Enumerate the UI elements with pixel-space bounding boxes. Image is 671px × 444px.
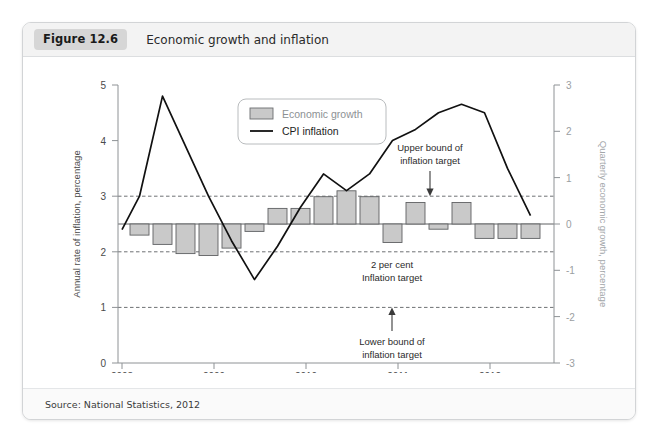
bar: [314, 197, 333, 224]
annotation-lower-bound: Lower bound of inflation target: [359, 307, 425, 360]
figure-title: Economic growth and inflation: [146, 33, 329, 47]
ytick-right: 1: [566, 173, 572, 184]
xtick-label: 2009: [203, 371, 226, 373]
bar: [429, 224, 448, 229]
annotation-two-per-cent-line1: 2 per cent: [371, 259, 414, 270]
xtick-label: 2010: [295, 371, 318, 373]
chart-area: 5 4 3 2 1 0 Annual rate of inflation, pe…: [34, 63, 626, 373]
annotation-upper-bound: Upper bound of inflation target: [397, 142, 463, 196]
figure-footer: Source: National Statistics, 2012: [23, 388, 635, 419]
source-note: Source: National Statistics, 2012: [45, 399, 200, 410]
ytick-left: 1: [100, 302, 106, 313]
left-axis: 5 4 3 2 1 0 Annual rate of inflation, pe…: [71, 80, 118, 369]
bar: [521, 224, 540, 238]
ytick-right: 2: [566, 126, 572, 137]
bar: [337, 191, 356, 224]
bar: [153, 224, 172, 244]
bar: [452, 203, 471, 225]
x-axis: 2008 2009 2010 2011 2012: [111, 363, 554, 373]
ytick-left: 2: [100, 247, 106, 258]
legend-swatch-economic-growth: [250, 108, 273, 119]
annotation-two-per-cent-line2: Inflation target: [362, 272, 423, 283]
bars-economic-growth: [130, 191, 540, 256]
economic-growth-inflation-chart: 5 4 3 2 1 0 Annual rate of inflation, pe…: [34, 63, 626, 373]
xtick-label: 2012: [479, 371, 502, 373]
figure-header: Figure 12.6 Economic growth and inflatio…: [23, 23, 635, 57]
ytick-left: 5: [100, 80, 106, 91]
annotation-upper-bound-line1: Upper bound of: [397, 142, 463, 153]
xtick-label: 2008: [111, 371, 134, 373]
ytick-left: 4: [100, 136, 106, 147]
bar: [268, 208, 287, 224]
ytick-left: 0: [100, 358, 106, 369]
y-axis-label-right: Quarterly economic growth, percentage: [598, 141, 609, 307]
annotation-two-per-cent: 2 per cent Inflation target: [362, 259, 423, 283]
ytick-right: -2: [566, 312, 575, 323]
legend-box: [238, 99, 386, 144]
annotation-lower-bound-line2: inflation target: [362, 349, 422, 360]
bar: [475, 224, 494, 238]
bar: [130, 224, 149, 235]
figure-screenshot: Figure 12.6 Economic growth and inflatio…: [0, 0, 671, 444]
bar: [245, 224, 264, 231]
bar: [291, 208, 310, 224]
ytick-left: 3: [100, 191, 106, 202]
annotation-lower-bound-line1: Lower bound of: [359, 336, 425, 347]
bar: [176, 224, 195, 254]
ytick-right: 3: [566, 80, 572, 91]
ytick-right: -1: [566, 265, 575, 276]
bar: [383, 224, 402, 243]
legend-label-cpi-inflation: CPI inflation: [282, 125, 339, 137]
figure-panel: Figure 12.6 Economic growth and inflatio…: [22, 22, 636, 420]
figure-number-badge: Figure 12.6: [34, 29, 127, 50]
arrow-down-icon: [426, 189, 433, 197]
legend-label-economic-growth: Economic growth: [282, 108, 363, 120]
bar: [498, 224, 517, 238]
right-axis: 3 2 1 0 -1 -2 -3 Quarterly economic grow…: [554, 80, 609, 369]
ytick-right: 0: [566, 219, 572, 230]
bar: [360, 197, 379, 224]
annotation-upper-bound-line2: inflation target: [400, 155, 460, 166]
y-axis-label-left: Annual rate of inflation, percentage: [71, 150, 82, 297]
ytick-right: -3: [566, 358, 575, 369]
bar: [199, 224, 218, 256]
chart-legend: Economic growth CPI inflation: [238, 99, 386, 144]
xtick-label: 2011: [387, 371, 409, 373]
bar: [406, 203, 425, 225]
